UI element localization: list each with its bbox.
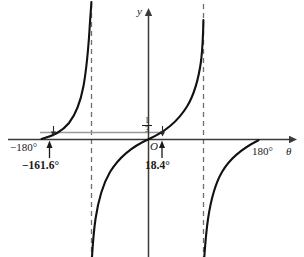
fraction-denominator: 3 — [142, 125, 152, 134]
origin-label: O — [150, 141, 158, 152]
x-tick-label-min: −180° — [10, 142, 37, 153]
theta-axis-label: θ — [286, 146, 291, 157]
x-tick-label-max: 180° — [252, 146, 273, 157]
y-axis-arrowhead — [145, 8, 152, 16]
tan-branch-middle — [92, 20, 203, 257]
y-value-one-third-label: 1 3 — [142, 117, 152, 135]
y-axis-label: y — [137, 6, 142, 17]
theta-axis-arrowhead — [289, 136, 297, 143]
tangent-graph-plot — [0, 0, 304, 257]
fraction-numerator: 1 — [142, 117, 152, 125]
solution-label-negative: −161.6° — [22, 160, 59, 172]
callout-arrow-positive — [159, 141, 165, 159]
callout-arrow-negative — [47, 141, 53, 159]
tan-branch-left — [42, 2, 92, 139]
tan-branch-right — [204, 140, 258, 257]
figure-container: θ y O −180° 180° 1 3 −161.6° 18.4° — [0, 0, 304, 257]
solution-label-positive: 18.4° — [145, 160, 170, 172]
